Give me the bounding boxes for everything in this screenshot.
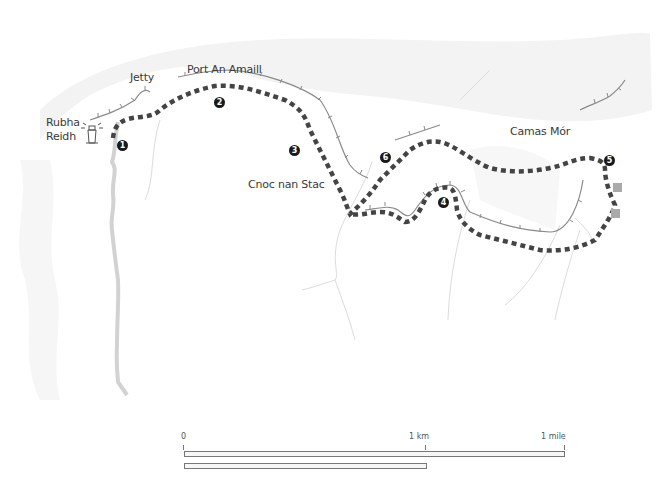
scale-label-zero: 0 [181, 432, 186, 441]
label-rubha-reidh: Rubha Reidh [46, 116, 80, 144]
scale-tick-zero [183, 445, 184, 450]
waypoint-marker-5[interactable]: 5 [604, 155, 615, 166]
building-icon [613, 183, 622, 192]
label-line: Reidh [46, 130, 80, 144]
label-camas-mor: Camas Mór [510, 125, 570, 138]
road [112, 122, 127, 395]
terrain-shading [19, 33, 652, 400]
scale-bar-mile [184, 451, 565, 457]
scale-bar-km [184, 463, 427, 469]
waypoint-marker-4[interactable]: 4 [438, 197, 449, 208]
building-icon [611, 209, 620, 218]
lighthouse-icon [81, 123, 103, 143]
waypoint-marker-2[interactable]: 2 [214, 97, 225, 108]
scale-tick-km [425, 445, 426, 450]
label-port-an-amaill: Port An Amaill [187, 63, 262, 76]
label-line: Rubha [46, 116, 80, 130]
scale-label-mile: 1 mile [541, 432, 566, 441]
waypoint-marker-3[interactable]: 3 [289, 145, 300, 156]
label-jetty: Jetty [130, 71, 154, 84]
label-cnoc-nan-stac: Cnoc nan Stac [248, 178, 325, 191]
waypoint-marker-6[interactable]: 6 [380, 152, 391, 163]
scale-label-km: 1 km [409, 432, 429, 441]
scale-tick-mile [564, 445, 565, 450]
map-canvas [0, 0, 658, 497]
waypoint-marker-1[interactable]: 1 [117, 140, 128, 151]
